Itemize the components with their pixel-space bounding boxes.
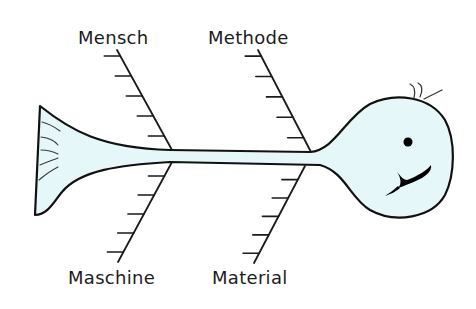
bone-line: [117, 50, 172, 150]
eyelash: [418, 83, 422, 97]
eyelash: [410, 84, 415, 98]
eyelash: [424, 90, 442, 99]
eyelashes: [410, 83, 442, 99]
category-label-methode: Methode: [208, 27, 289, 48]
category-label-mensch: Mensch: [78, 27, 149, 48]
category-label-material: Material: [212, 267, 288, 288]
bone-line: [118, 162, 172, 262]
bone-line: [254, 166, 305, 263]
bone-bottom-left: [107, 162, 172, 262]
eye: [404, 138, 413, 147]
bone-top-right: [245, 50, 311, 152]
bone-bottom-right: [243, 166, 305, 263]
bone-top-left: [104, 50, 172, 150]
bone-line: [258, 50, 311, 152]
fishbone-diagram: Mensch Methode Maschine Material: [0, 0, 476, 309]
category-label-maschine: Maschine: [68, 267, 155, 288]
fish-body: [35, 97, 453, 217]
